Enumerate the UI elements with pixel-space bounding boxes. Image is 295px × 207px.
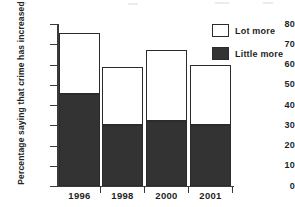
bar-segment-lot-more-2001 [190, 65, 231, 126]
y-tick-20 [50, 146, 57, 147]
y-tick-label-10: 10 [249, 161, 295, 170]
x-separator-tick [144, 186, 145, 193]
scan-artifact [215, 2, 229, 4]
scan-artifact [128, 3, 138, 5]
legend-swatch-little-more [212, 47, 229, 60]
y-tick-80 [50, 24, 57, 25]
legend-label-lot-more: Lot more [235, 26, 275, 36]
y-tick-label-30: 30 [249, 121, 295, 130]
y-tick-70 [50, 44, 57, 45]
bar-group-1996 [59, 33, 100, 186]
x-separator-tick [232, 186, 233, 193]
bar-segment-lot-more-1998 [102, 67, 143, 126]
bar-group-1998 [102, 67, 143, 187]
y-tick-60 [50, 65, 57, 66]
y-tick-label-50: 50 [249, 80, 295, 89]
x-axis-label-1996: 1996 [59, 190, 100, 202]
bar-segment-little-more-1996 [59, 94, 100, 186]
chart-legend: Lot more Little more [212, 22, 283, 68]
bar-segment-lot-more-2000 [146, 50, 187, 121]
y-tick-40 [50, 105, 57, 106]
x-axis-label-2000: 2000 [146, 190, 187, 202]
y-tick-30 [50, 125, 57, 126]
bar-segment-little-more-2000 [146, 121, 187, 186]
legend-label-little-more: Little more [235, 49, 283, 59]
bar-group-2000 [146, 50, 187, 186]
chart-figure: Percentage saying that crime has increas… [0, 0, 295, 207]
x-separator-tick [188, 186, 189, 193]
bar-group-2001 [190, 65, 231, 187]
y-axis-title: Percentage saying that crime has increas… [14, 0, 28, 186]
bar-segment-little-more-2001 [190, 125, 231, 186]
y-tick-label-20: 20 [249, 141, 295, 150]
bar-segment-lot-more-1996 [59, 33, 100, 94]
legend-item-little-more: Little more [212, 45, 283, 62]
scan-artifact [263, 2, 273, 4]
y-tick-10 [50, 166, 57, 167]
x-axis-label-2001: 2001 [190, 190, 231, 202]
x-axis-label-1998: 1998 [102, 190, 143, 202]
bar-segment-little-more-1998 [102, 125, 143, 186]
y-tick-0 [50, 186, 57, 187]
legend-swatch-lot-more [212, 24, 229, 37]
y-tick-50 [50, 85, 57, 86]
y-tick-label-40: 40 [249, 101, 295, 110]
legend-item-lot-more: Lot more [212, 22, 283, 39]
y-tick-label-0: 0 [249, 182, 295, 191]
x-separator-tick [100, 186, 101, 193]
